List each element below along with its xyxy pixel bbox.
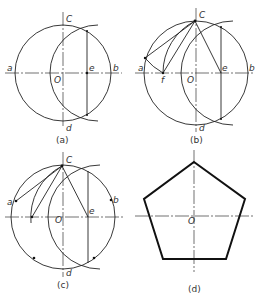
- label-b: b: [249, 63, 255, 73]
- pentagon-construction-figure: C a O e b d (a) C a f O e b d (b): [0, 0, 258, 298]
- label-b: b: [113, 195, 119, 205]
- caption-a: (a): [56, 135, 69, 145]
- label-d: d: [66, 123, 72, 133]
- panel-b: C a f O e b d (b): [135, 8, 255, 145]
- label-O: O: [188, 216, 195, 226]
- intersection-top: [86, 30, 88, 32]
- line-Ce: [62, 166, 88, 217]
- arc-f-to-circle: [145, 58, 163, 73]
- label-O: O: [54, 75, 61, 85]
- label-C: C: [66, 14, 73, 24]
- vertex-b: [110, 199, 113, 202]
- point-C: [61, 165, 64, 168]
- label-e: e: [89, 63, 95, 73]
- panel-a: C a O e b d (a): [5, 12, 122, 145]
- label-d: d: [199, 123, 205, 133]
- panel-c: C a O e b d (c): [5, 152, 125, 290]
- label-a: a: [7, 63, 13, 73]
- panel-d: O (d): [135, 150, 255, 294]
- label-f: f: [161, 75, 166, 85]
- label-d: d: [66, 268, 72, 278]
- label-b: b: [113, 63, 119, 73]
- caption-d: (d): [188, 284, 201, 294]
- vertex-a: [15, 200, 18, 203]
- point-C: [194, 20, 197, 23]
- label-a: a: [138, 63, 144, 73]
- label-e: e: [222, 63, 228, 73]
- line-Ce: [195, 21, 221, 73]
- label-C: C: [66, 155, 73, 165]
- point-f: [162, 72, 164, 74]
- label-e: e: [89, 206, 95, 216]
- caption-b: (b): [190, 135, 203, 145]
- vertex-lower-left: [33, 257, 36, 260]
- point-side: [144, 57, 146, 59]
- regular-pentagon: [144, 162, 245, 259]
- point-e: [86, 72, 88, 74]
- point-f: [31, 216, 33, 218]
- vertex-lower-right: [93, 257, 96, 260]
- intersection-bottom: [220, 118, 222, 120]
- label-C: C: [199, 10, 206, 20]
- label-O: O: [187, 75, 194, 85]
- pentagon-side-chord: [145, 21, 195, 58]
- label-a: a: [7, 197, 13, 207]
- caption-c: (c): [57, 280, 69, 290]
- intersection-top: [220, 26, 222, 28]
- intersection-bottom: [86, 114, 88, 116]
- label-O: O: [55, 215, 62, 225]
